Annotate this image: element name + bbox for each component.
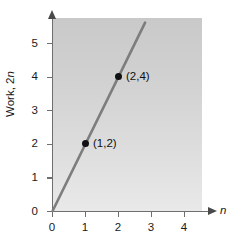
x-axis-title: n <box>220 204 226 216</box>
y-axis-title: Work, 2n <box>4 56 16 132</box>
y-axis-title-variable: n <box>4 71 16 77</box>
data-point-label-2-4: (2,4) <box>126 71 150 83</box>
data-line <box>0 0 235 250</box>
chart-figure: 0 1 2 3 4 5 0 1 2 3 4 (1,2) (2,4) Work, … <box>0 0 235 250</box>
data-point-label-1-2: (1,2) <box>93 138 117 150</box>
y-axis-title-prefix: Work, 2 <box>4 78 16 117</box>
